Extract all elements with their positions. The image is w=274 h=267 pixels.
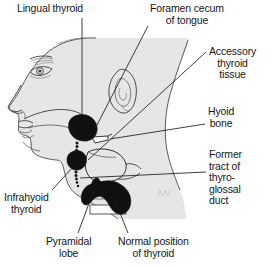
accessory-thyroid-mass [67, 151, 87, 171]
label-accessory-thyroid-tissue: Accessory thyroid tissue [209, 46, 256, 81]
anatomy-illustration [0, 0, 274, 267]
label-pyramidal-lobe: Pyramidal lobe [46, 236, 91, 259]
label-former-tract-thyroglossal-duct: Former tract of thyro- glossal duct [209, 149, 242, 207]
anatomical-figure: Lingual thyroid Foramen cecum of tongue … [0, 0, 274, 267]
label-foramen-cecum: Foramen cecum of tongue [150, 3, 224, 26]
label-lingual-thyroid: Lingual thyroid [17, 3, 83, 15]
label-hyoid-bone: Hyoid bone [208, 106, 234, 129]
label-infrahyoid-thyroid: Infrahyoid thyroid [4, 192, 49, 215]
label-normal-position-of-thyroid: Normal position of thyroid [118, 236, 189, 259]
